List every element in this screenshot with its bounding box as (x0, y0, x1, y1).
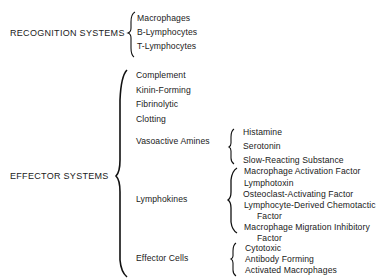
recognition-item-b-lymphocytes: B-Lymphocytes (137, 27, 197, 37)
lymphokine-child-osteoclast-activating-factor: Osteoclast-Activating Factor (243, 189, 353, 199)
recognition-systems-label: RECOGNITION SYSTEMS (10, 28, 125, 38)
effector-item-fibrinolytic: Fibrinolytic (136, 99, 178, 109)
vasoactive-child-slow-reacting-substance: Slow-Reacting Substance (243, 155, 344, 165)
effector-item-kinin-forming: Kinin-Forming (136, 85, 191, 95)
recognition-item-macrophages: Macrophages (137, 13, 190, 23)
effector-item-complement: Complement (136, 70, 186, 80)
effector-brace (116, 70, 127, 277)
lymphokine-child-macrophage-activation-factor: Macrophage Activation Factor (244, 166, 361, 176)
recognition-brace (128, 12, 135, 57)
effector-item-clotting: Clotting (136, 114, 166, 124)
effector-systems-label: EFFECTOR SYSTEMS (10, 171, 109, 181)
lymphokines-brace (228, 168, 237, 233)
effector-item-vasoactive-amines: Vasoactive Amines (136, 136, 210, 146)
effector-item-lymphokines: Lymphokines (136, 194, 187, 204)
effector-cells-child-activated-macrophages: Activated Macrophages (245, 265, 337, 275)
lymphokine-child-factor-continuation-2: Factor (257, 233, 282, 243)
vasoactive-brace (229, 129, 234, 164)
effector-cells-child-antibody-forming: Antibody Forming (245, 254, 314, 264)
lymphokine-child-lymphotoxin: Lymphotoxin (244, 178, 294, 188)
lymphokine-child-lymphocyte-derived-chemotactic: Lymphocyte-Derived Chemotactic (244, 200, 376, 210)
lymphokine-child-macrophage-migration-inhibitory: Macrophage Migration Inhibitory (244, 222, 370, 232)
lymphokine-child-factor-continuation-1: Factor (257, 211, 282, 221)
vasoactive-child-histamine: Histamine (243, 127, 282, 137)
recognition-item-t-lymphocytes: T-Lymphocytes (137, 41, 196, 51)
effector-cells-child-cytotoxic: Cytotoxic (245, 243, 281, 253)
effector-item-effector-cells: Effector Cells (136, 253, 188, 263)
vasoactive-child-serotonin: Serotonin (243, 141, 281, 151)
effector-cells-brace (231, 243, 236, 276)
